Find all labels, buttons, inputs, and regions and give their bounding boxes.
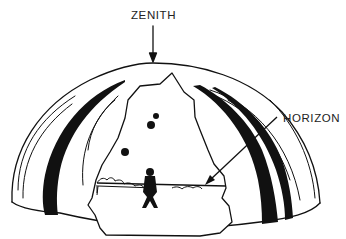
zenith-label: ZENITH — [131, 9, 176, 21]
star — [121, 148, 129, 156]
zenith-arrow — [150, 26, 157, 62]
celestial-dome-diagram: ZENITH HORIZON — [0, 0, 346, 239]
horizon-label: HORIZON — [283, 112, 340, 124]
star — [147, 121, 155, 129]
star — [153, 113, 159, 119]
